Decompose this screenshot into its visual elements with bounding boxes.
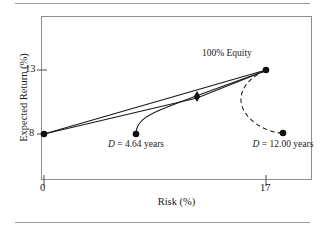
annotation-duration-short-value: = 4.64 years [115,139,164,149]
marker-risk-free-point [41,131,48,138]
marker-d-464-endpoint [133,131,140,138]
annotation-equity: 100% Equity [202,48,252,58]
y-axis-title: Expected Return (%) [18,33,29,163]
frontier-line-upper [44,70,266,134]
annotation-duration-long-value: = 12.00 years [259,139,313,149]
marker-equity-point [263,67,270,74]
curve-d-1200 [241,71,281,133]
annotation-duration-long: D = 12.00 years [252,139,314,150]
x-tick-label-0: 0 [40,182,45,193]
chart-svg [0,0,322,228]
x-axis-title: Risk (%) [41,196,312,207]
figure-container: 13 8 0 17 Expected Return (%) Risk (%) 1… [0,0,322,228]
marker-d-1200-endpoint [280,130,287,137]
annotation-duration-short: D = 4.64 years [108,139,164,149]
x-tick-label-17: 17 [260,182,271,193]
marker-tangency-diamond [194,91,200,102]
annotation-duration-short-variable: D [108,139,115,149]
y-tick-label-8: 8 [29,127,34,138]
